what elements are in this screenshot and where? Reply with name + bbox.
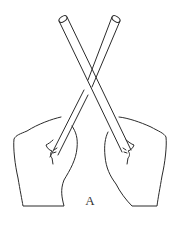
figure-label: A	[82, 193, 98, 209]
stick-left-to-right	[58, 14, 131, 152]
stick-right-to-left	[50, 14, 121, 157]
crossed-sticks-figure: A	[0, 0, 180, 225]
right-hand	[105, 117, 167, 206]
left-hand	[14, 117, 78, 206]
